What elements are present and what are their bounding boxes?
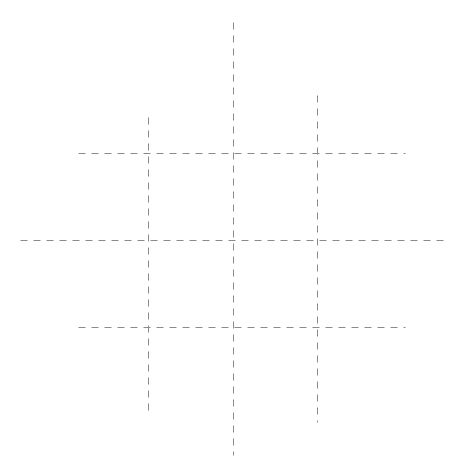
grid-lines [21,23,446,456]
dashed-grid-diagram [0,0,463,474]
